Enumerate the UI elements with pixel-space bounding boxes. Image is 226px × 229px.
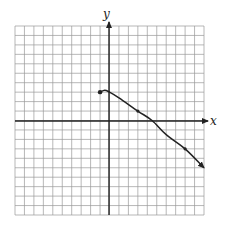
y-axis-label: y xyxy=(102,7,110,21)
x-axis-label: x xyxy=(210,114,217,128)
start-point-dot xyxy=(98,90,102,94)
marked-point-dot xyxy=(136,109,139,112)
coordinate-plane: x y xyxy=(0,0,226,229)
marked-point-dot xyxy=(184,147,187,150)
